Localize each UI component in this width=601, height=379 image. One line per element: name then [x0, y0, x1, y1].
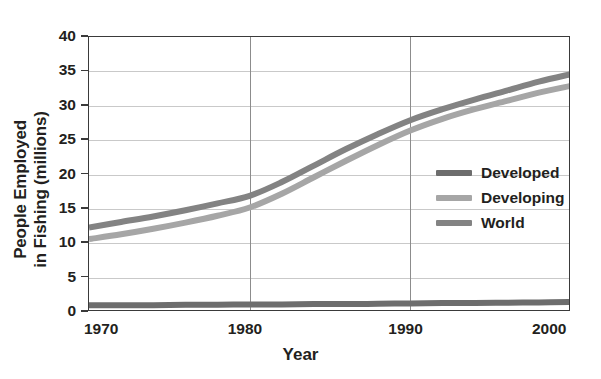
x-tick-label: 1980: [228, 321, 262, 337]
y-tick-label: 25: [42, 131, 76, 147]
y-tick-mark: [81, 173, 88, 175]
y-tick-label: 30: [42, 97, 76, 113]
y-tick-mark: [81, 207, 88, 209]
legend-label: World: [481, 215, 525, 231]
legend-item-developed[interactable]: Developed: [436, 160, 576, 185]
y-tick-label: 20: [42, 166, 76, 182]
x-tick-label: 1970: [84, 321, 118, 337]
y-tick-mark: [81, 104, 88, 106]
y-tick-mark: [81, 276, 88, 278]
y-tick-label: 0: [42, 303, 76, 319]
legend-swatch-icon: [436, 170, 472, 176]
legend-item-developing[interactable]: Developing: [436, 185, 576, 210]
legend-swatch-icon: [436, 220, 472, 226]
x-tick-label: 1990: [388, 321, 422, 337]
y-tick-label: 15: [42, 200, 76, 216]
x-axis-title: Year: [0, 345, 601, 365]
y-axis-title: People Employed in Fishing (millions): [0, 0, 62, 379]
legend-label: Developed: [481, 165, 559, 181]
y-tick-mark: [81, 310, 88, 312]
y-tick-label: 5: [42, 269, 76, 285]
chart-legend: DevelopedDevelopingWorld: [436, 160, 576, 235]
series-line-developed: [89, 302, 570, 305]
line-chart: People Employed in Fishing (millions) 05…: [0, 0, 601, 379]
y-tick-label: 10: [42, 234, 76, 250]
y-tick-mark: [81, 138, 88, 140]
y-tick-mark: [81, 70, 88, 72]
legend-label: Developing: [481, 190, 565, 206]
y-tick-mark: [81, 35, 88, 37]
y-tick-mark: [81, 241, 88, 243]
legend-item-world[interactable]: World: [436, 210, 576, 235]
x-tick-label: 2000: [532, 321, 566, 337]
y-axis-title-line1: People Employed: [11, 120, 30, 259]
y-tick-label: 35: [42, 62, 76, 78]
legend-swatch-icon: [436, 195, 472, 201]
y-tick-label: 40: [42, 28, 76, 44]
